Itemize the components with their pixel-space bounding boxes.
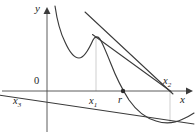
origin-label: 0 (34, 76, 39, 87)
point-label-x2: x2 (163, 76, 171, 89)
root-marker-dot (121, 89, 125, 93)
y-axis-label: y (35, 3, 40, 14)
point-label-x3-subscript: 3 (18, 101, 22, 109)
function-curve (55, 6, 194, 123)
point-label-x3: x3 (13, 96, 21, 109)
tangent-line-at-x1 (85, 12, 173, 94)
y-axis-arrow-icon (44, 7, 51, 14)
x-axis-arrow-icon (186, 88, 193, 95)
newton-method-figure: y x 0 x3 x1 r x2 (0, 0, 195, 136)
point-label-r: r (118, 95, 122, 106)
figure-canvas (0, 0, 195, 136)
x-axis-label: x (180, 94, 185, 105)
chord-line-to-x2 (93, 35, 172, 92)
point-label-x2-subscript: 2 (168, 81, 172, 89)
point-label-x1-subscript: 1 (94, 101, 98, 109)
point-label-x1: x1 (89, 96, 97, 109)
